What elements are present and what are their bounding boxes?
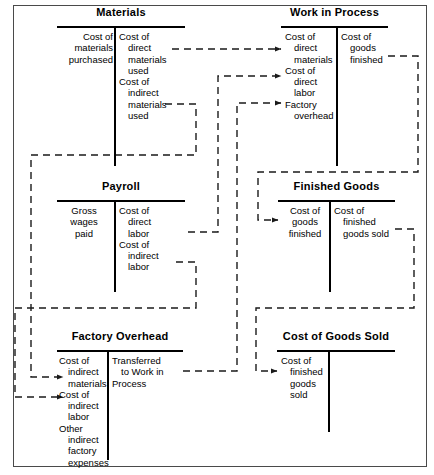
entry: Cost of direct materials used: [119, 31, 189, 76]
account-rule: [281, 26, 388, 28]
entry: Other indirect factory expenses: [59, 423, 105, 468]
account-title-cost-of-goods-sold: Cost of Goods Sold: [277, 330, 395, 342]
account-rule: [278, 200, 395, 202]
entry: Cost of direct labor: [285, 65, 335, 99]
account-materials: Materials Cost of materials purchased Co…: [57, 6, 185, 166]
entry: Cost of direct labor: [119, 205, 185, 239]
entry: Cost of indirect labor: [59, 389, 105, 423]
account-debit-column: Cost of goods finished: [282, 205, 328, 239]
diagram-canvas: Materials Cost of materials purchased Co…: [0, 0, 434, 475]
entry: Cost of direct materials: [285, 31, 335, 65]
account-payroll: Payroll Gross wages paid Cost of direct …: [57, 180, 185, 290]
account-rule: [57, 200, 185, 202]
account-stem: [336, 26, 338, 166]
account-stem: [329, 200, 331, 292]
account-debit-column: Cost of finished goods sold: [281, 355, 327, 400]
account-stem: [107, 350, 109, 460]
entry: Cost of finished goods sold: [334, 205, 396, 239]
entry: Cost of goods finished: [282, 205, 328, 239]
entry: Gross wages paid: [57, 205, 111, 239]
account-rule: [277, 350, 395, 352]
account-debit-column: Cost of indirect materials Cost of indir…: [59, 355, 105, 468]
entry: Factory overhead: [285, 99, 335, 122]
entry: Cost of indirect materials used: [119, 76, 189, 121]
account-stem: [328, 350, 330, 432]
account-stem: [114, 26, 116, 166]
account-credit-column: Cost of direct labor Cost of indirect la…: [119, 205, 185, 273]
account-title-factory-overhead: Factory Overhead: [57, 330, 183, 342]
entry: Cost of goods finished: [341, 31, 389, 65]
account-credit-column: Transferred to Work in Process: [112, 355, 184, 389]
entry: Transferred to Work in Process: [112, 355, 184, 389]
account-finished-goods: Finished Goods Cost of goods finished Co…: [278, 180, 395, 290]
entry: Cost of indirect labor: [119, 239, 185, 273]
account-title-materials: Materials: [57, 6, 185, 18]
account-debit-column: Cost of materials purchased: [59, 31, 113, 65]
account-debit-column: Cost of direct materials Cost of direct …: [285, 31, 335, 121]
account-work-in-process: Work in Process Cost of direct materials…: [281, 6, 388, 166]
account-title-work-in-process: Work in Process: [281, 6, 388, 18]
account-debit-column: Gross wages paid: [57, 205, 111, 239]
entry: Cost of materials purchased: [59, 31, 113, 65]
entry: Cost of finished goods sold: [281, 355, 327, 400]
account-credit-column: Cost of goods finished: [341, 31, 389, 65]
account-stem: [114, 200, 116, 292]
account-factory-overhead: Factory Overhead Cost of indirect materi…: [57, 330, 183, 460]
account-credit-column: Cost of finished goods sold: [334, 205, 396, 239]
account-title-finished-goods: Finished Goods: [278, 180, 395, 192]
account-rule: [57, 350, 183, 352]
account-credit-column: Cost of direct materials used Cost of in…: [119, 31, 189, 121]
entry: Cost of indirect materials: [59, 355, 105, 389]
account-title-payroll: Payroll: [57, 180, 185, 192]
account-rule: [57, 26, 185, 28]
account-cost-of-goods-sold: Cost of Goods Sold Cost of finished good…: [277, 330, 395, 460]
